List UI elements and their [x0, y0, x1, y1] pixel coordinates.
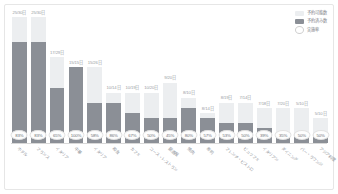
- bar-segment-total[interactable]: [50, 57, 65, 87]
- x-axis-tick: ビュッフェ: [237, 145, 254, 187]
- bar-value-label: 15/15日: [69, 61, 83, 65]
- x-axis-tick: 和食: [105, 145, 122, 187]
- bar-segment-total[interactable]: [106, 93, 121, 103]
- bar-value-label: 9/20日: [164, 76, 176, 80]
- x-axis-tick-label: 居酒屋: [167, 147, 179, 158]
- bar-value-label: 25/30日: [12, 11, 26, 15]
- bar-segment-total[interactable]: [31, 17, 46, 42]
- bar-column[interactable]: 15/26日58%: [86, 13, 103, 143]
- x-axis-tick: 寿司: [199, 145, 216, 187]
- x-axis-tick: イタリア: [86, 145, 103, 187]
- x-axis-tick-label: 和食: [111, 147, 120, 155]
- x-axis-tick: イタリアン: [256, 145, 273, 187]
- x-axis-tick: 中華: [67, 145, 84, 187]
- bar-column[interactable]: 10/20日50%: [143, 13, 160, 143]
- bar-column[interactable]: 8/14日57%: [199, 13, 216, 143]
- bar-column[interactable]: 10/14日86%: [105, 13, 122, 143]
- bar-value-label: 25/30日: [31, 11, 45, 15]
- bar-value-label: 10/14日: [107, 86, 121, 90]
- bar-column[interactable]: 25/30日83%: [30, 13, 47, 143]
- bar-value-label: 8/14日: [202, 107, 214, 111]
- x-axis-tick: カフェ: [124, 145, 141, 187]
- bar-segment-total[interactable]: [238, 103, 253, 123]
- bar-segment-total[interactable]: [257, 108, 272, 128]
- bar-value-label: 7/20日: [277, 102, 289, 106]
- bar-segment-total[interactable]: [12, 17, 27, 42]
- x-axis-tick: フランス: [30, 145, 47, 187]
- rate-badge: 57%: [199, 130, 216, 140]
- bar-column[interactable]: 8/10日80%: [180, 13, 197, 143]
- bar-column[interactable]: 15/15日100%: [67, 13, 84, 143]
- x-axis-tick: ホテル: [11, 145, 28, 187]
- x-axis-tick-label: 焼肉: [186, 147, 195, 155]
- bar-value-label: 7/18日: [258, 102, 270, 106]
- rate-badge: 65%: [49, 130, 66, 140]
- rate-badge: 39%: [256, 130, 273, 140]
- rate-badge: 80%: [180, 130, 197, 140]
- bar-column[interactable]: 7/14日50%: [237, 13, 254, 143]
- x-axis-tick: 焼肉: [180, 145, 197, 187]
- rate-badge: 45%: [162, 130, 179, 140]
- bar-value-label: 5/10日: [296, 102, 308, 106]
- x-axis-tick: アジア料理: [312, 145, 329, 187]
- bar-value-label: 15/26日: [88, 61, 102, 65]
- x-axis-tick-label: 中華: [73, 147, 82, 155]
- bar-segment-total[interactable]: [144, 93, 159, 118]
- bar-value-label: 10/20日: [144, 86, 158, 90]
- x-axis-tick: コース・レストラン: [143, 145, 160, 187]
- bar-value-label: 10/19日: [125, 86, 139, 90]
- rate-badge: 53%: [218, 130, 235, 140]
- bar-column[interactable]: 25/30日83%: [11, 13, 28, 143]
- bar-value-label: 8/19日: [221, 96, 233, 100]
- rate-badge: 50%: [143, 130, 160, 140]
- x-axis-line: [11, 143, 327, 144]
- x-axis-tick: フレンチ・ビストロ: [218, 145, 235, 187]
- bar-column[interactable]: 7/20日35%: [275, 13, 292, 143]
- x-axis-category-labels: ホテルフランスイタリア中華イタリア和食カフェコース・レストラン居酒屋焼肉寿司フレ…: [11, 145, 329, 187]
- x-axis-tick: バー・ラウンジ: [293, 145, 310, 187]
- rate-badge: 50%: [312, 130, 329, 140]
- bar-segment-total[interactable]: [163, 83, 178, 118]
- bar-column[interactable]: 9/20日45%: [162, 13, 179, 143]
- bar-column[interactable]: 5/10日50%: [293, 13, 310, 143]
- x-axis-tick: 居酒屋: [162, 145, 179, 187]
- bar-column[interactable]: 7/18日39%: [256, 13, 273, 143]
- screenshot-root: 予約可能数 予約済み数 実施率 25/30日83%25/30日83%17/29日…: [0, 0, 338, 194]
- bar-column[interactable]: 8/19日53%: [218, 13, 235, 143]
- bar-segment-sold[interactable]: [31, 42, 46, 143]
- x-axis-tick: イタリア: [49, 145, 66, 187]
- rate-badge: 86%: [105, 130, 122, 140]
- x-axis-tick-label: ホテル: [17, 147, 29, 158]
- bar-value-label: 17/29日: [50, 51, 64, 55]
- rate-badge: 58%: [86, 130, 103, 140]
- rate-badge: 50%: [237, 130, 254, 140]
- x-axis-tick-label: 寿司: [205, 147, 214, 155]
- rate-badge: 83%: [11, 130, 28, 140]
- bar-stack[interactable]: [12, 17, 27, 143]
- bar-value-label: 5/10日: [315, 112, 327, 116]
- bar-segment-total[interactable]: [125, 93, 140, 113]
- bar-column[interactable]: 5/10日50%: [312, 13, 329, 143]
- chart-card: 予約可能数 予約済み数 実施率 25/30日83%25/30日83%17/29日…: [4, 4, 334, 190]
- bar-segment-total[interactable]: [87, 67, 102, 102]
- bar-column[interactable]: 17/29日65%: [49, 13, 66, 143]
- x-axis-tick-label: カフェ: [130, 147, 142, 158]
- rate-badge: 35%: [275, 130, 292, 140]
- rate-badge: 50%: [293, 130, 310, 140]
- bar-value-label: 7/14日: [240, 96, 252, 100]
- bar-segment-sold[interactable]: [12, 42, 27, 143]
- plot-area: 25/30日83%25/30日83%17/29日65%15/15日100%15/…: [11, 13, 329, 143]
- bar-series-group: 25/30日83%25/30日83%17/29日65%15/15日100%15/…: [11, 13, 329, 143]
- rate-badge: 100%: [67, 130, 84, 140]
- bar-value-label: 8/10日: [183, 91, 195, 95]
- bar-stack[interactable]: [31, 17, 46, 143]
- bar-segment-total[interactable]: [181, 98, 196, 108]
- bar-segment-total[interactable]: [219, 103, 234, 123]
- bar-column[interactable]: 10/19日67%: [124, 13, 141, 143]
- rate-badge: 67%: [124, 130, 141, 140]
- x-axis-tick-label: アジア料理: [318, 147, 336, 163]
- x-axis-tick: ダイニング: [275, 145, 292, 187]
- rate-badge: 83%: [30, 130, 47, 140]
